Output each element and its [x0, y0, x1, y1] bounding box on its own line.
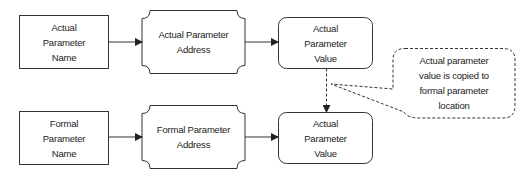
- label-line: Address: [157, 137, 230, 152]
- label-line: Address: [158, 42, 228, 57]
- actual-value-label-top: ActualParameterValue: [279, 18, 372, 68]
- label-line: Name: [43, 50, 86, 65]
- label-line: Parameter: [304, 131, 347, 146]
- actual-address-label: Actual ParameterAddress: [143, 11, 244, 73]
- label-line: Parameter: [43, 35, 86, 50]
- label-line: Name: [43, 146, 86, 161]
- label-line: Parameter: [43, 131, 86, 146]
- label-line: value is copied to: [419, 68, 489, 83]
- label-line: Actual Parameter: [158, 27, 228, 42]
- label-line: Value: [304, 146, 347, 161]
- label-line: Actual: [304, 116, 347, 131]
- callout-label: Actual parametervalue is copied toformal…: [396, 49, 512, 117]
- formal-address-label: Formal ParameterAddress: [143, 106, 244, 168]
- label-line: formal parameter: [419, 83, 489, 98]
- label-line: location: [419, 98, 489, 113]
- label-line: Actual: [304, 21, 347, 36]
- formal-name-label: FormalParameterName: [20, 112, 108, 164]
- label-line: Parameter: [304, 36, 347, 51]
- actual-value-label-bottom: ActualParameterValue: [279, 113, 372, 163]
- label-line: Actual parameter: [419, 53, 489, 68]
- label-line: Formal Parameter: [157, 122, 230, 137]
- label-line: Formal: [43, 116, 86, 131]
- label-line: Value: [304, 51, 347, 66]
- label-line: Actual: [43, 20, 86, 35]
- actual-name-label: ActualParameterName: [20, 16, 108, 68]
